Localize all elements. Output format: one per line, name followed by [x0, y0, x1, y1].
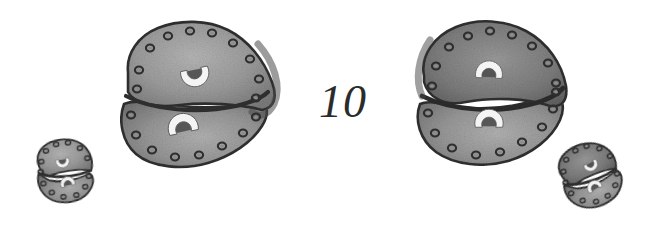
figure-number-label: 10 [312, 74, 374, 130]
figure-plate: 10 [0, 0, 670, 239]
